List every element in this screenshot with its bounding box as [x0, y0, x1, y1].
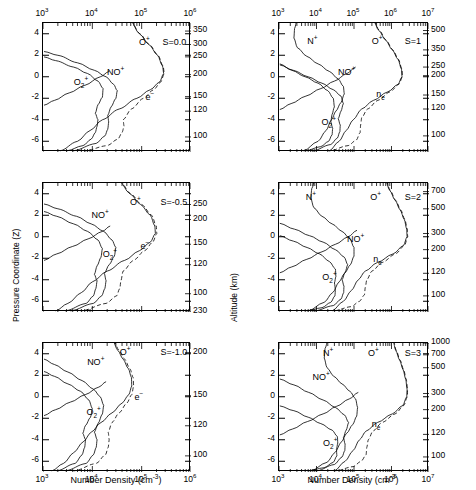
- y-tick-label: 2: [19, 368, 39, 378]
- y-tick-label: -6: [255, 294, 275, 304]
- y-tick-label: -2: [255, 91, 275, 101]
- y-tick-label: 4: [19, 27, 39, 37]
- altitude-tick-label: 150: [193, 90, 207, 100]
- y-tick-label: 0: [19, 390, 39, 400]
- left-column: O+NO+O2+e−S=0.0420-2-4-63503002502001501…: [0, 0, 238, 490]
- altitude-tick-label: 230: [193, 305, 207, 315]
- panel-s-label: S=-1.0: [160, 347, 187, 357]
- altitude-tick-label: 350: [431, 43, 445, 53]
- curve-label-o: O+: [130, 197, 141, 207]
- y-tick-label: -6: [19, 134, 39, 144]
- altitude-tick-label: 100: [431, 129, 445, 139]
- altitude-tick-label: 250: [193, 50, 207, 60]
- y-tick-label: -6: [255, 134, 275, 144]
- curve-label-o: O+: [120, 347, 131, 357]
- curve-label-o: O+: [368, 348, 379, 358]
- altitude-tick-label: 300: [193, 38, 207, 48]
- y-tick-label: 4: [19, 347, 39, 357]
- altitude-tick-label: 150: [193, 389, 207, 399]
- y-tick-label: -4: [255, 273, 275, 283]
- curve-nbranchlower: [280, 230, 357, 272]
- curve-label-n: N+: [307, 36, 317, 46]
- altitude-tick-label: 100: [193, 130, 207, 140]
- panel-s-label: S=3: [405, 348, 421, 358]
- altitude-tick-label: 200: [431, 403, 445, 413]
- curve-label-o: O+: [139, 37, 150, 47]
- altitude-tick-label: 500: [431, 361, 445, 371]
- altitude-tick-label: 120: [193, 258, 207, 268]
- y-tick-label: -2: [255, 411, 275, 421]
- curve-o2: [44, 372, 92, 471]
- curve-label-o: O+: [372, 36, 383, 46]
- x-tick-label: 106: [377, 8, 405, 18]
- curve-no: [280, 379, 349, 471]
- altitude-tick-label: 200: [431, 243, 445, 253]
- y-tick-label: 4: [255, 27, 275, 37]
- curve-label-no: NO+: [92, 210, 109, 220]
- y-tick-label: -2: [19, 411, 39, 421]
- right-column: N+O+NO+O2+neS=1420-2-4-65003502502001501…: [238, 0, 476, 490]
- y-tick-label: -2: [255, 251, 275, 261]
- altitude-tick-label: 100: [193, 449, 207, 459]
- y-tick-label: -4: [255, 433, 275, 443]
- y-tick-label: 0: [19, 70, 39, 80]
- curve-label-no: NO+: [87, 357, 104, 367]
- y-tick-label: -6: [255, 454, 275, 464]
- curve-ne: [335, 343, 407, 471]
- altitude-tick-label: 120: [193, 419, 207, 429]
- curve-label-ne: ne: [373, 254, 382, 264]
- y-tick-label: 2: [255, 48, 275, 58]
- curve-label-o2: O2+: [74, 77, 88, 87]
- altitude-tick-label: 100: [431, 450, 445, 460]
- curve-label-o2: O2+: [322, 272, 336, 282]
- altitude-tick-label: 120: [431, 266, 445, 276]
- panel-s-label: S=-0.5: [160, 197, 187, 207]
- y-tick-label: 2: [255, 368, 275, 378]
- y-tick-label: 2: [19, 208, 39, 218]
- altitude-tick-label: 300: [431, 227, 445, 237]
- altitude-tick-label: 200: [193, 346, 207, 356]
- panel-s-label: S=1: [405, 36, 421, 46]
- curve-n: [294, 23, 344, 151]
- x-axis-label: Number Density (cm-3): [42, 475, 190, 485]
- curve-label-no: NO+: [313, 372, 330, 382]
- curves-layer: [43, 343, 191, 472]
- curve-label-o2: O2+: [323, 438, 337, 448]
- curve-label-ne: ne: [372, 419, 381, 429]
- x-tick-label: 107: [414, 8, 442, 18]
- curve-label-no: NO+: [347, 234, 364, 244]
- altitude-tick-label: 150: [193, 237, 207, 247]
- altitude-tick-label: 120: [431, 102, 445, 112]
- altitude-tick-label: 100: [193, 287, 207, 297]
- curve-label-ne: ne: [376, 89, 385, 99]
- altitude-tick-label: 250: [193, 198, 207, 208]
- altitude-tick-label: 200: [193, 68, 207, 78]
- altitude-tick-label: 350: [193, 24, 207, 34]
- curve-label-e: e−: [135, 392, 144, 402]
- altitude-tick-label: 200: [193, 213, 207, 223]
- altitude-tick-label: 1000: [431, 336, 450, 346]
- x-tick-label: 103: [264, 8, 292, 18]
- altitude-tick-label: 300: [431, 387, 445, 397]
- curve-nbranch: [44, 226, 110, 260]
- x-tick-label: 104: [77, 8, 105, 18]
- curve-label-n: N+: [323, 348, 333, 358]
- y-tick-label: 4: [19, 187, 39, 197]
- curve-label-no: NO+: [338, 67, 355, 77]
- curve-o: [334, 343, 407, 471]
- curve-label-n: N+: [306, 192, 316, 202]
- y-tick-label: 4: [255, 187, 275, 197]
- y-tick-label: 0: [255, 230, 275, 240]
- altitude-tick-label: 120: [431, 427, 445, 437]
- panel-s-label: S=2: [405, 192, 421, 202]
- x-axis-label: Number Density (cm-3): [278, 475, 428, 485]
- plot-panel-s-10: [42, 342, 190, 471]
- altitude-tick-label: 500: [431, 24, 445, 34]
- y-tick-label: -2: [19, 91, 39, 101]
- y-tick-label: -4: [19, 273, 39, 283]
- plot-panel-s3: [278, 342, 428, 471]
- altitude-tick-label: 500: [431, 202, 445, 212]
- curve-label-o: O+: [370, 192, 381, 202]
- curve-label-e: e−: [146, 92, 155, 102]
- altitude-tick-label: 120: [193, 104, 207, 114]
